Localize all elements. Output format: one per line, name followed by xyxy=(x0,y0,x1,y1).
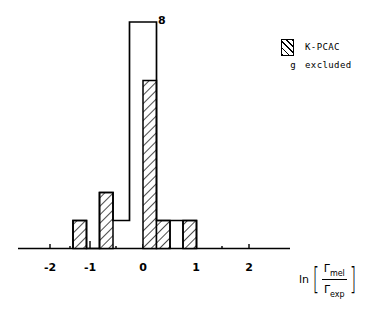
fraction-denominator: Γexp xyxy=(322,280,347,300)
x-tick-label: 1 xyxy=(192,261,200,274)
legend-item-excluded: g excluded xyxy=(281,56,379,74)
bar-separators xyxy=(170,221,183,249)
histogram-figure: -2 -1 0 1 2 8 xyxy=(0,0,381,318)
legend-label: K-PCAC xyxy=(305,42,340,52)
legend-symbol: g xyxy=(281,60,305,70)
peak-value-label: 8 xyxy=(158,14,166,27)
hatched-bars xyxy=(73,81,197,249)
ln-operator: ln xyxy=(299,273,309,286)
histogram-outline xyxy=(73,22,197,249)
x-tick-labels: -2 -1 0 1 2 xyxy=(44,261,253,274)
bar-hatched xyxy=(183,221,197,249)
left-bracket-icon: [ xyxy=(313,264,319,294)
gamma-subscript: mel xyxy=(330,269,345,278)
right-bracket-icon: ] xyxy=(349,264,355,294)
legend-item-k-pcac: K-PCAC xyxy=(281,38,379,56)
bar-hatched xyxy=(143,81,157,249)
fraction-numerator: Γmel xyxy=(322,259,347,280)
gamma-subscript: exp xyxy=(330,290,345,299)
hatch-swatch-icon xyxy=(281,39,294,56)
bar-hatched xyxy=(100,193,114,249)
legend: K-PCAC g excluded xyxy=(281,38,379,74)
gamma-ratio: Γmel Γexp xyxy=(322,259,347,299)
x-tick-label: 2 xyxy=(245,261,253,274)
bar-hatched xyxy=(157,221,171,249)
bar-hatched xyxy=(73,221,87,249)
x-tick-label: 0 xyxy=(139,261,147,274)
x-axis-label: ln [ Γmel Γexp ] xyxy=(299,259,359,299)
x-tick-label: -1 xyxy=(84,261,96,274)
x-tick-label: -2 xyxy=(44,261,56,274)
legend-label: excluded xyxy=(305,60,352,70)
legend-swatch-cell xyxy=(281,39,305,56)
